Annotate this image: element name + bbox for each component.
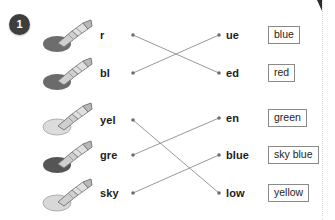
color-word-box[interactable]: red xyxy=(268,64,295,82)
match-line[interactable] xyxy=(133,120,219,193)
right-word-part[interactable]: low xyxy=(226,187,266,199)
page-corner-mark xyxy=(317,0,322,11)
match-line[interactable] xyxy=(133,35,219,73)
match-dot[interactable] xyxy=(217,33,221,37)
color-word-box[interactable]: yellow xyxy=(268,184,309,202)
left-word-part[interactable]: gre xyxy=(100,149,134,161)
crayon-icon xyxy=(38,177,96,215)
crayon-icon xyxy=(38,139,96,177)
color-word-box[interactable]: sky blue xyxy=(268,146,319,164)
color-word-box[interactable]: green xyxy=(268,109,307,127)
page-edge-rule xyxy=(322,0,323,220)
right-word-part[interactable]: ue xyxy=(226,29,266,41)
match-dot[interactable] xyxy=(217,153,221,157)
match-dot[interactable] xyxy=(217,191,221,195)
left-word-part[interactable]: r xyxy=(100,29,134,41)
match-dot[interactable] xyxy=(217,71,221,75)
match-line[interactable] xyxy=(133,155,219,193)
crayon-icon xyxy=(38,101,96,139)
left-word-part[interactable]: yel xyxy=(100,114,134,126)
color-word-box[interactable]: blue xyxy=(268,26,300,44)
match-line[interactable] xyxy=(133,118,219,155)
crayon-icon xyxy=(38,18,96,56)
crayon-icon xyxy=(38,56,96,94)
left-word-part[interactable]: bl xyxy=(100,67,134,79)
left-word-part[interactable]: sky xyxy=(100,187,134,199)
match-line[interactable] xyxy=(133,35,219,73)
match-dot[interactable] xyxy=(217,116,221,120)
exercise-number-badge: 1 xyxy=(9,14,30,35)
right-word-part[interactable]: blue xyxy=(226,149,266,161)
right-word-part[interactable]: en xyxy=(226,112,266,124)
worksheet-canvas: 1 xyxy=(0,0,335,220)
right-word-part[interactable]: ed xyxy=(226,67,266,79)
